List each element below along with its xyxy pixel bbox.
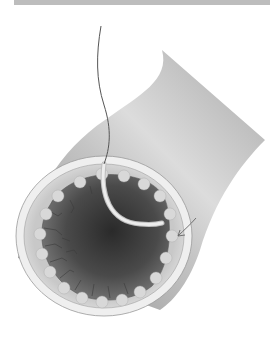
vessel-illustration (0, 0, 278, 346)
